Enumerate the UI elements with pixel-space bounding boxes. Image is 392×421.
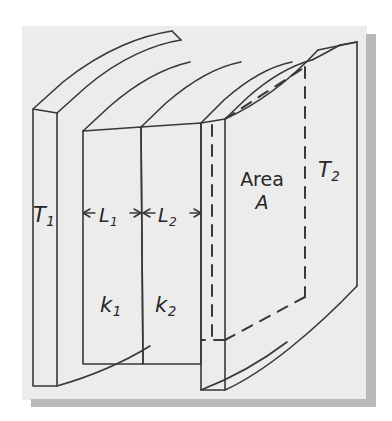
label-l1: L1: [99, 206, 118, 228]
label-area: Area A: [236, 170, 288, 212]
label-l2: L2: [158, 206, 177, 228]
label-t1: T1: [33, 205, 55, 228]
label-k1-base: k: [100, 293, 112, 317]
label-k2-subscript: 2: [168, 304, 177, 319]
label-t2-subscript: 2: [331, 169, 340, 184]
label-l2-subscript: 2: [169, 215, 177, 229]
label-t1-base: T: [33, 203, 46, 227]
label-t2-base: T: [318, 158, 331, 182]
label-k1-subscript: 1: [113, 304, 122, 319]
label-area-word: Area: [240, 168, 284, 190]
rear-plate-t2: [225, 42, 357, 390]
label-k1: k1: [100, 295, 121, 318]
label-area-symbol: A: [236, 193, 288, 212]
figure-root: T1 L1 L2 k1 k2 T2 Area A: [0, 0, 392, 421]
label-k2-base: k: [155, 293, 167, 317]
label-l1-base: L: [99, 204, 110, 226]
composite-slab-drawing: [0, 0, 392, 421]
label-k2: k2: [155, 295, 176, 318]
label-l1-subscript: 1: [110, 215, 118, 229]
label-t2: T2: [318, 160, 340, 183]
label-t1-subscript: 1: [46, 214, 55, 229]
label-l2-base: L: [158, 204, 169, 226]
